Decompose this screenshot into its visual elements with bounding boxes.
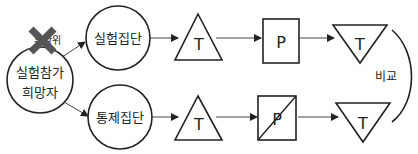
- pretest-triangle: T: [175, 96, 222, 140]
- participants-label-line2: 희망자: [22, 85, 58, 100]
- arrow-to-control: [64, 102, 88, 116]
- experimental-group-node: 실험집단: [86, 6, 150, 70]
- treatment-box: P: [263, 19, 299, 63]
- control-group-label: 통제집단: [96, 110, 144, 125]
- posttest-label: T: [354, 35, 365, 54]
- posttest-label: T: [357, 114, 368, 133]
- pretest-label: T: [193, 115, 204, 134]
- posttest-triangle: T: [336, 103, 390, 142]
- pretest-triangle: T: [175, 14, 222, 60]
- treatment-label: P: [276, 33, 286, 52]
- posttest-triangle: T: [333, 25, 387, 63]
- participants-node: 실험참가 희망자: [7, 47, 73, 113]
- pretest-label: T: [193, 35, 204, 54]
- compare-label: 비교: [375, 70, 397, 84]
- experimental-group-label: 실험집단: [94, 31, 142, 46]
- participants-label-line1: 실험참가: [16, 65, 64, 80]
- treatment-box-withheld: P: [258, 96, 296, 140]
- arrow-to-experimental: [62, 42, 85, 57]
- experiment-design-diagram: 실험참가 희망자 무작위 실험집단 T P T 통제집단 T P: [0, 0, 418, 154]
- control-group-node: 통제집단: [88, 85, 152, 149]
